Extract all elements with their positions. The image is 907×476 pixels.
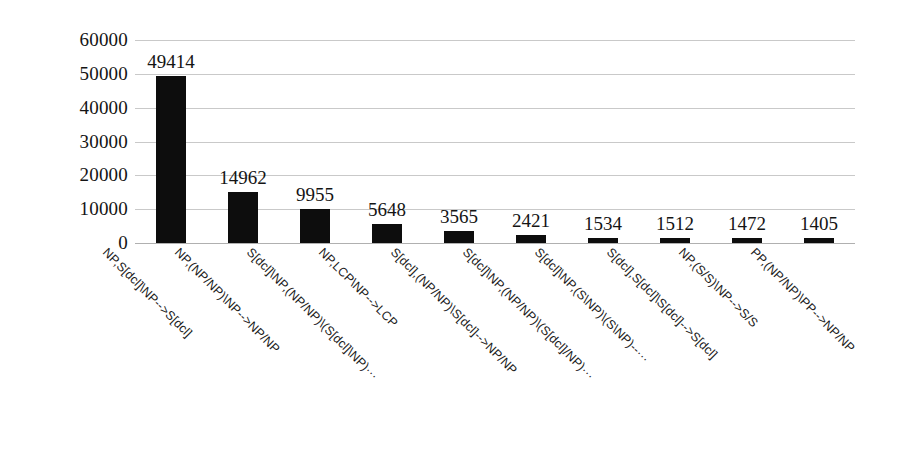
x-tick-label: S[dcl]\NP,(NP/NP)\(S[dcl]/NP)··· [460, 246, 597, 383]
bar[interactable] [444, 231, 474, 243]
y-tick-label: 10000 [0, 199, 128, 218]
x-tick-label-text: S[dcl]\NP,(NP/NP)\(S[dcl]/NP)··· [460, 246, 597, 383]
y-tick-label: 30000 [0, 132, 128, 151]
x-axis-labels: NP,S[dcl]\NP-->S[dcl]NP,(NP/NP)\NP-->NP/… [135, 246, 855, 476]
gridline [135, 40, 855, 41]
bar[interactable] [372, 224, 402, 243]
bar[interactable] [300, 209, 330, 243]
bar-value-label: 1472 [707, 214, 787, 233]
bar-chart: 0100002000030000400005000060000 49414149… [0, 0, 907, 476]
x-tick-label: PP,(NP/NP)\PP-->NP/NP [748, 246, 857, 355]
bar-value-label: 49414 [131, 52, 211, 71]
x-tick-label: S[dcl],(NP/NP)\S[dcl]-->NP/NP [388, 246, 519, 377]
x-tick-label-text: NP,LCP\NP-->LCP [316, 246, 400, 330]
bar[interactable] [732, 238, 762, 243]
bar[interactable] [228, 192, 258, 243]
gridline [135, 243, 855, 244]
y-tick-label: 40000 [0, 98, 128, 117]
bar[interactable] [804, 238, 834, 243]
bar[interactable] [156, 76, 186, 243]
bar-value-label: 14962 [203, 168, 283, 187]
x-tick-label: NP,(S/S)\NP-->S/S [676, 246, 760, 330]
gridline [135, 74, 855, 75]
y-tick-label: 60000 [0, 30, 128, 49]
bar-value-label: 1512 [635, 214, 715, 233]
x-tick-label: NP,LCP\NP-->LCP [316, 246, 400, 330]
bar[interactable] [516, 235, 546, 243]
x-tick-label-text: S[dcl]\NP,(NP/NP)\(S[dcl]\NP)··· [244, 246, 381, 383]
bar-value-label: 5648 [347, 200, 427, 219]
x-tick-label-text: S[dcl]\NP,(S\NP)\(S\NP)--··· [532, 246, 652, 366]
x-tick-label-text: NP,(S/S)\NP-->S/S [676, 246, 760, 330]
bar-value-label: 1405 [779, 214, 859, 233]
x-tick-label-text: PP,(NP/NP)\PP-->NP/NP [748, 246, 857, 355]
y-tick-label: 50000 [0, 64, 128, 83]
bar-value-label: 1534 [563, 214, 643, 233]
bar-value-label: 9955 [275, 185, 355, 204]
gridline [135, 142, 855, 143]
bar-value-label: 3565 [419, 207, 499, 226]
x-tick-label: S[dcl]\NP,(NP/NP)\(S[dcl]\NP)··· [244, 246, 381, 383]
x-tick-label: S[dcl]\NP,(S\NP)\(S\NP)--··· [532, 246, 652, 366]
x-tick-label-text: S[dcl],(NP/NP)\S[dcl]-->NP/NP [388, 246, 519, 377]
y-tick-label: 20000 [0, 165, 128, 184]
gridline [135, 108, 855, 109]
plot-area: 4941414962995556483565242115341512147214… [135, 40, 855, 243]
bar[interactable] [588, 238, 618, 243]
bar[interactable] [660, 238, 690, 243]
y-axis: 0100002000030000400005000060000 [0, 40, 128, 243]
bar-value-label: 2421 [491, 211, 571, 230]
